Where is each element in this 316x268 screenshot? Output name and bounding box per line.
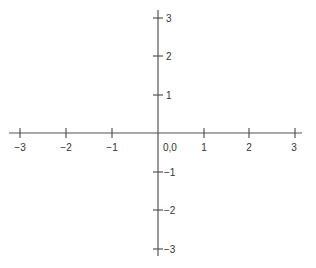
origin-label: 0,0: [163, 142, 177, 153]
y-tick-label: −1: [164, 167, 176, 178]
x-tick-label: 1: [201, 142, 207, 153]
x-tick-label: −2: [60, 142, 72, 153]
x-tick-label: 2: [246, 142, 252, 153]
x-tick-label: −1: [106, 142, 118, 153]
y-tick-label: 2: [166, 51, 172, 62]
x-tick-label: −3: [14, 142, 26, 153]
coordinate-plane: −3 −2 −1 0,0 1 2 3 3 2 1 −1 −2 −3: [0, 0, 316, 268]
y-tick-label: −3: [164, 244, 176, 255]
y-tick-label: −2: [164, 205, 176, 216]
x-tick-label: 3: [291, 142, 297, 153]
y-tick-label: 1: [166, 90, 172, 101]
y-tick-label: 3: [166, 13, 172, 24]
